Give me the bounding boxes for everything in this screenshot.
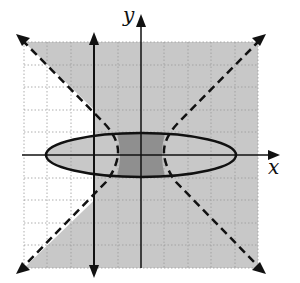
arrow-downleft-icon: [16, 262, 30, 274]
arrow-up-icon: [89, 32, 99, 45]
graph-canvas: y x: [0, 0, 300, 283]
arrow-up-icon: [136, 14, 146, 27]
x-axis-label: x: [268, 155, 279, 179]
y-axis-label: y: [122, 3, 135, 27]
arrow-down-icon: [89, 265, 99, 278]
